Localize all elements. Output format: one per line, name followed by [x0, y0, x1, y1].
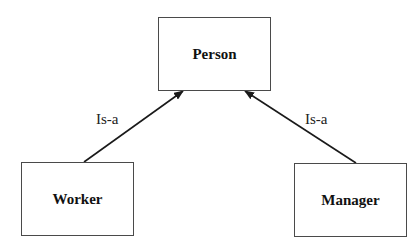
is-a-label-left: Is-a	[96, 111, 119, 128]
person-node-label: Person	[192, 46, 236, 63]
worker-node: Worker	[21, 162, 134, 236]
is-a-label-right: Is-a	[305, 111, 328, 128]
is-a-arrow-manager-to-person	[245, 91, 356, 163]
manager-node-label: Manager	[321, 192, 379, 209]
person-node: Person	[158, 17, 271, 91]
diagram-canvas: Person Worker Manager Is-a Is-a	[0, 0, 420, 245]
manager-node: Manager	[294, 163, 407, 237]
worker-node-label: Worker	[53, 191, 103, 208]
